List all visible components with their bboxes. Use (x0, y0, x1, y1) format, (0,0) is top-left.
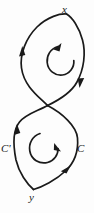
top-loop-rotation-arrow-icon (47, 43, 74, 75)
lower-loop-left-branch (14, 106, 47, 190)
upper-loop-right-branch (48, 14, 85, 106)
vertex-label-x: x (62, 4, 67, 15)
branch-label-c-prime: C' (1, 143, 11, 154)
bottom-loop-right-arrowhead (61, 166, 71, 174)
upper-loop-left-branch (21, 14, 66, 106)
branch-label-c: C (77, 143, 84, 154)
bottom-loop-rotation-arrow-icon (30, 134, 61, 163)
top-loop-right-arrowhead (78, 78, 85, 88)
figure-eight-curve-svg (0, 0, 94, 213)
vertex-label-y: y (29, 192, 34, 203)
upper-loop-group (21, 14, 84, 106)
lower-loop-group (14, 106, 78, 190)
figure-container: x y C' C (0, 0, 94, 213)
